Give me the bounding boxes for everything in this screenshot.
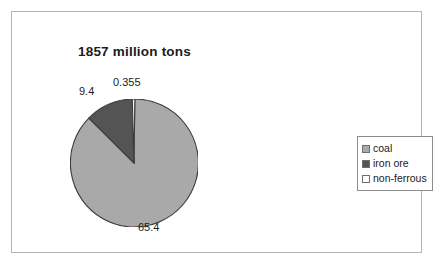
chart-title: 1857 million tons xyxy=(78,44,191,59)
pie-data-label-non-ferrous: 0.355 xyxy=(113,76,141,88)
legend-label-non-ferrous: non-ferrous xyxy=(373,173,427,184)
legend-swatch-non-ferrous xyxy=(362,175,370,183)
chart-canvas: 1857 million tons 9.4 0.355 65.4 coal ir… xyxy=(0,0,435,268)
pie-svg xyxy=(70,99,198,227)
legend-swatch-coal xyxy=(362,145,370,153)
pie-chart xyxy=(70,99,198,227)
pie-data-label-coal: 65.4 xyxy=(138,221,159,233)
legend-label-coal: coal xyxy=(373,143,392,154)
chart-frame: 1857 million tons 9.4 0.355 65.4 coal ir… xyxy=(11,11,422,253)
legend-item-iron-ore[interactable]: iron ore xyxy=(362,156,429,171)
legend-label-iron-ore: iron ore xyxy=(373,158,409,169)
legend-item-non-ferrous[interactable]: non-ferrous xyxy=(362,171,429,186)
chart-legend: coal iron ore non-ferrous xyxy=(357,136,433,191)
pie-data-label-iron-ore: 9.4 xyxy=(79,85,94,97)
legend-item-coal[interactable]: coal xyxy=(362,141,429,156)
legend-swatch-iron-ore xyxy=(362,160,370,168)
